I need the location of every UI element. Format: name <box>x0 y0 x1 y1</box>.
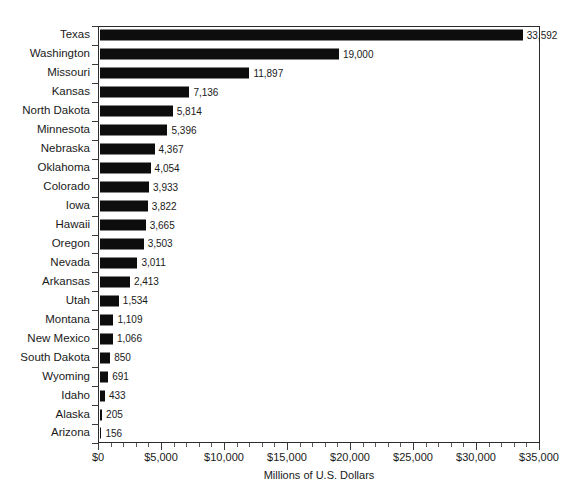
bar-with-value: 4,054 <box>100 163 180 174</box>
y-axis-tick <box>92 159 99 160</box>
bar <box>100 49 339 60</box>
bar-chart: Texas33,592Washington19,000Missouri11,89… <box>0 0 587 497</box>
x-axis-minor-tick <box>312 443 313 447</box>
bar-row: Colorado3,933 <box>0 178 587 197</box>
x-axis-minor-tick <box>526 443 527 447</box>
bar <box>100 125 168 136</box>
bar-row: Alaska205 <box>0 405 587 424</box>
bar <box>100 257 138 268</box>
bar-row: Idaho433 <box>0 386 587 405</box>
y-axis-tick <box>92 26 99 27</box>
bar-with-value: 5,814 <box>100 106 202 117</box>
bar-with-value: 7,136 <box>100 87 219 98</box>
bar <box>100 163 151 174</box>
x-axis-tick-label: $35,000 <box>519 452 559 463</box>
x-axis-major-tick <box>350 443 351 450</box>
bar-with-value: 1,534 <box>100 295 148 306</box>
x-axis-tick-label: $10,000 <box>204 452 244 463</box>
bar-with-value: 19,000 <box>100 49 374 60</box>
x-axis-minor-tick <box>136 443 137 447</box>
bar-value-label: 19,000 <box>343 49 374 59</box>
bar-value-label: 3,933 <box>153 182 178 192</box>
bar-value-label: 5,814 <box>177 106 202 116</box>
x-axis-tick-label: $25,000 <box>393 452 433 463</box>
x-axis-tick-label: $0 <box>92 452 104 463</box>
x-axis-major-tick <box>287 443 288 450</box>
bar <box>100 390 105 401</box>
bar-row: North Dakota5,814 <box>0 102 587 121</box>
bar-row: Utah1,534 <box>0 291 587 310</box>
x-axis: Millions of U.S. Dollars $0$5,000$10,000… <box>98 443 540 497</box>
bar-row: Oregon3,503 <box>0 234 587 253</box>
category-label: Iowa <box>66 200 90 212</box>
category-label: Nevada <box>50 257 90 269</box>
category-label: Alaska <box>55 409 90 421</box>
bar-row: Oklahoma4,054 <box>0 159 587 178</box>
bar-value-label: 850 <box>114 353 131 363</box>
bar-with-value: 3,011 <box>100 257 166 268</box>
bar-with-value: 205 <box>100 409 123 420</box>
x-axis-minor-tick <box>262 443 263 447</box>
x-axis-minor-tick <box>501 443 502 447</box>
x-axis-minor-tick <box>174 443 175 447</box>
bar-value-label: 691 <box>112 372 129 382</box>
bar-value-label: 1,109 <box>117 315 142 325</box>
x-axis-minor-tick <box>186 443 187 447</box>
bar-row: Montana1,109 <box>0 310 587 329</box>
x-axis-major-tick <box>476 443 477 450</box>
x-axis-minor-tick <box>438 443 439 447</box>
x-axis-title: Millions of U.S. Dollars <box>98 470 540 481</box>
x-axis-minor-tick <box>489 443 490 447</box>
bar <box>100 87 190 98</box>
category-label: Montana <box>45 314 90 326</box>
bar <box>100 182 150 193</box>
bar-with-value: 3,822 <box>100 201 177 212</box>
x-axis-tick-label: $20,000 <box>330 452 370 463</box>
bar <box>100 352 111 363</box>
category-label: Minnesota <box>37 124 90 136</box>
bar <box>100 409 103 420</box>
bar-row: Nebraska4,367 <box>0 140 587 159</box>
y-axis-tick <box>92 178 99 179</box>
y-axis-tick <box>92 121 99 122</box>
y-axis-tick <box>92 64 99 65</box>
y-axis-tick <box>92 235 99 236</box>
x-axis-tick-label: $15,000 <box>267 452 307 463</box>
bar-value-label: 4,367 <box>159 144 184 154</box>
bar-row: Nevada3,011 <box>0 253 587 272</box>
y-axis-tick <box>92 197 99 198</box>
bar <box>100 201 148 212</box>
bar-row: Minnesota5,396 <box>0 121 587 140</box>
bar-row: Arkansas2,413 <box>0 272 587 291</box>
category-label: Washington <box>30 49 90 61</box>
bar-value-label: 156 <box>105 428 122 438</box>
y-axis-tick <box>92 253 99 254</box>
category-label: Missouri <box>47 68 90 80</box>
bar <box>100 314 114 325</box>
x-axis-minor-tick <box>111 443 112 447</box>
x-axis-minor-tick <box>388 443 389 447</box>
bar-value-label: 3,665 <box>150 220 175 230</box>
x-axis-minor-tick <box>337 443 338 447</box>
bar-rows-container: Texas33,592Washington19,000Missouri11,89… <box>0 26 587 443</box>
bar <box>100 428 102 439</box>
bar-value-label: 205 <box>106 410 123 420</box>
category-label: Arkansas <box>42 276 90 288</box>
bar-value-label: 2,413 <box>134 277 159 287</box>
bar-with-value: 1,066 <box>100 333 142 344</box>
x-axis-minor-tick <box>426 443 427 447</box>
bar-row: Iowa3,822 <box>0 197 587 216</box>
bar-with-value: 4,367 <box>100 144 184 155</box>
bar-row: Hawaii3,665 <box>0 216 587 235</box>
bar-with-value: 433 <box>100 390 126 401</box>
x-axis-major-tick <box>539 443 540 450</box>
y-axis-tick <box>92 348 99 349</box>
bar-value-label: 11,897 <box>253 68 283 78</box>
x-axis-minor-tick <box>463 443 464 447</box>
x-axis-major-tick <box>224 443 225 450</box>
bar-with-value: 3,503 <box>100 238 173 249</box>
bar <box>100 371 109 382</box>
bar-value-label: 3,822 <box>152 201 177 211</box>
y-axis-tick <box>92 102 99 103</box>
bar-value-label: 3,011 <box>141 258 165 268</box>
